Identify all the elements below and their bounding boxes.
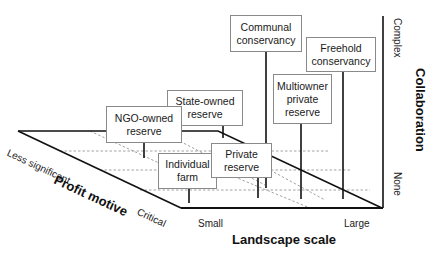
- communal-conservancy-box: Communal conservancy: [230, 15, 302, 52]
- individual-farm-box: Individual farm: [158, 153, 217, 189]
- collaboration-low-label: None: [392, 172, 403, 196]
- freehold-conservancy-box: Freehold conservancy: [306, 37, 376, 72]
- landscape-scale-title: Landscape scale: [232, 232, 336, 247]
- ngo-owned-reserve-box: NGO-owned reserve: [106, 106, 182, 143]
- scale-high-label: Large: [344, 218, 370, 229]
- collaboration-title: Collaboration: [413, 68, 428, 152]
- multiowner-private-reserve-box: Multiowner private reserve: [273, 74, 332, 124]
- collaboration-high-label: Complex: [392, 18, 403, 57]
- private-reserve-box: Private reserve: [211, 143, 272, 178]
- scale-low-label: Small: [198, 218, 223, 229]
